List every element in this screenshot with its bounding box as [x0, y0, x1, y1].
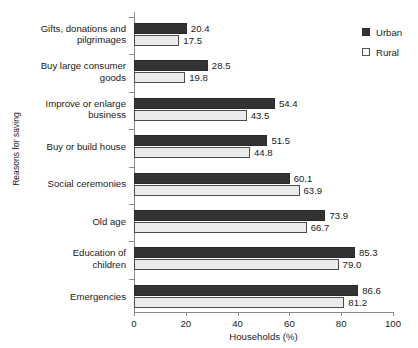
bar-urban — [134, 210, 325, 221]
x-axis-tick — [341, 312, 342, 316]
category-label: Gifts, donations andpilgrimages — [8, 23, 126, 46]
legend-swatch-rural-icon — [362, 48, 370, 56]
legend-label: Urban — [376, 27, 402, 38]
bar-value-urban: 85.3 — [359, 247, 378, 258]
y-axis-tick — [129, 54, 134, 55]
bar-urban — [134, 173, 290, 184]
bar-urban — [134, 247, 355, 258]
category-label-line: Buy or build house — [8, 141, 126, 153]
bar-value-rural: 19.8 — [189, 72, 208, 83]
category-label-line: pilgrimages — [8, 34, 126, 46]
legend-label: Rural — [376, 47, 399, 58]
x-axis-tick — [134, 312, 135, 316]
x-axis-tick-label: 80 — [321, 318, 361, 329]
bar-urban — [134, 23, 187, 34]
bar-value-rural: 66.7 — [311, 222, 330, 233]
x-axis-tick-label: 0 — [114, 318, 154, 329]
legend-item: Rural — [362, 44, 402, 60]
bar-value-urban: 51.5 — [271, 135, 290, 146]
category-label-line: Gifts, donations and — [8, 23, 126, 35]
bar-value-rural: 63.9 — [304, 185, 323, 196]
bar-value-urban: 86.6 — [362, 285, 381, 296]
bar-value-urban: 28.5 — [212, 60, 231, 71]
bar-rural — [134, 259, 339, 270]
y-axis-tick — [129, 204, 134, 205]
bar-value-rural: 17.5 — [183, 35, 202, 46]
x-axis-line — [134, 312, 394, 313]
legend-item: Urban — [362, 24, 402, 40]
bar-rural — [134, 185, 300, 196]
bar-chart: Reasons for saving Gifts, donations andp… — [0, 0, 418, 348]
bar-urban — [134, 285, 358, 296]
y-axis-tick — [129, 241, 134, 242]
category-label-line: Buy large consumer — [8, 60, 126, 72]
category-label-line: children — [8, 259, 126, 271]
y-axis-tick — [129, 279, 134, 280]
bar-value-urban: 73.9 — [329, 210, 348, 221]
x-axis-tick — [393, 312, 394, 316]
legend-swatch-urban-icon — [362, 28, 370, 36]
category-label: Buy or build house — [8, 141, 126, 153]
bar-rural — [134, 110, 247, 121]
category-label-line: Education of — [8, 247, 126, 259]
bar-rural — [134, 297, 344, 308]
x-axis-tick-label: 40 — [218, 318, 258, 329]
category-label: Buy large consumergoods — [8, 60, 126, 83]
category-label-line: Improve or enlarge — [8, 98, 126, 110]
bar-rural — [134, 222, 307, 233]
plot-area: 02040608010020.417.528.519.854.443.551.5… — [134, 12, 393, 312]
bar-urban — [134, 60, 208, 71]
category-label-line: goods — [8, 72, 126, 84]
bar-urban — [134, 135, 267, 146]
bar-value-urban: 54.4 — [279, 98, 298, 109]
x-axis-tick — [238, 312, 239, 316]
bar-urban — [134, 98, 275, 109]
category-label-line: Social ceremonies — [8, 178, 126, 190]
category-label-line: business — [8, 109, 126, 121]
category-label: Improve or enlargebusiness — [8, 98, 126, 121]
category-label-column: Gifts, donations andpilgrimagesBuy large… — [8, 14, 126, 312]
bar-rural — [134, 35, 179, 46]
bar-rural — [134, 147, 250, 158]
bar-rural — [134, 72, 185, 83]
category-label: Emergencies — [8, 291, 126, 303]
x-axis-tick-label: 60 — [269, 318, 309, 329]
category-label-line: Emergencies — [8, 291, 126, 303]
x-axis-tick-label: 20 — [166, 318, 206, 329]
bar-value-rural: 43.5 — [251, 110, 270, 121]
category-label: Education ofchildren — [8, 247, 126, 270]
bar-value-rural: 81.2 — [348, 297, 367, 308]
x-axis-tick — [186, 312, 187, 316]
x-axis-tick — [289, 312, 290, 316]
chart-legend: UrbanRural — [362, 24, 402, 64]
category-label: Old age — [8, 216, 126, 228]
y-axis-tick — [129, 92, 134, 93]
bar-value-rural: 44.8 — [254, 147, 273, 158]
category-label-line: Old age — [8, 216, 126, 228]
x-axis-tick-label: 100 — [373, 318, 413, 329]
y-axis-tick — [129, 17, 134, 18]
bar-value-urban: 20.4 — [191, 23, 210, 34]
y-axis-tick — [129, 129, 134, 130]
bar-value-urban: 60.1 — [294, 173, 313, 184]
y-axis-tick — [129, 167, 134, 168]
bar-value-rural: 79.0 — [343, 259, 362, 270]
x-axis-title: Households (%) — [134, 331, 393, 342]
category-label: Social ceremonies — [8, 178, 126, 190]
